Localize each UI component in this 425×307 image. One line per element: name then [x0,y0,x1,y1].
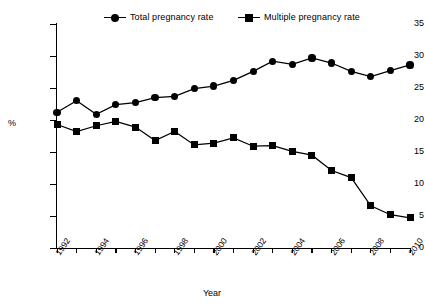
data-point-marker [73,128,80,135]
y-tick [50,184,56,185]
data-point-marker [191,141,198,148]
data-point-marker [250,68,257,75]
x-tick [115,248,116,253]
legend-entry-total-pregnancy-rate[interactable]: Total pregnancy rate [104,12,214,22]
plot-area [57,24,410,248]
data-point-marker [348,68,355,75]
data-point-marker [387,211,394,218]
x-tick [272,248,273,253]
series-line-1 [57,58,410,114]
x-tick [351,248,352,253]
data-point-marker [289,148,296,155]
data-point-marker [152,137,159,144]
data-point-marker [289,61,296,68]
data-point-marker [191,85,198,92]
data-point-marker [151,94,158,101]
x-tick [76,248,77,253]
circle-marker-icon [104,12,126,22]
data-point-marker [112,118,119,125]
data-point-marker [308,152,315,159]
data-point-marker [406,61,413,68]
data-point-marker [93,122,100,129]
x-tick [155,248,156,253]
data-point-marker [230,134,237,141]
data-point-marker [132,124,139,131]
x-tick [194,248,195,253]
y-axis-label: % [8,118,16,128]
x-axis-label: Year [0,288,424,298]
data-point-marker [367,202,374,209]
y-tick [50,152,56,153]
data-point-marker [308,54,315,61]
legend-label: Multiple pregnancy rate [264,12,360,22]
legend-entry-multiple-pregnancy-rate[interactable]: Multiple pregnancy rate [238,12,360,22]
y-tick [50,24,56,25]
data-point-marker [269,142,276,149]
square-marker-icon [238,12,260,22]
data-point-marker [348,174,355,181]
y-tick [50,216,56,217]
data-point-marker [407,214,414,221]
y-tick [50,88,56,89]
data-point-marker [210,140,217,147]
data-point-marker [53,109,60,116]
data-point-marker [171,128,178,135]
y-tick [50,56,56,57]
x-tick [233,248,234,253]
data-point-marker [250,143,257,150]
data-point-marker [328,59,335,66]
x-tick [311,248,312,253]
data-point-marker [328,167,335,174]
x-tick [390,248,391,253]
data-point-marker [269,58,276,65]
data-point-marker [54,121,61,128]
legend-label: Total pregnancy rate [130,12,214,22]
data-point-marker [230,77,237,84]
data-point-marker [93,111,100,118]
